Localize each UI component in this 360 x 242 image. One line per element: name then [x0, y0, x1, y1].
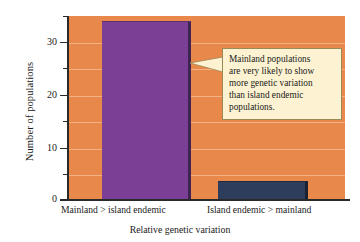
bar-island-face: [218, 181, 305, 199]
y-tick-minor-5: [63, 174, 68, 175]
y-axis-title: Number of populations: [24, 37, 35, 187]
callout-annotation-box: Mainland populations are very likely to …: [222, 48, 342, 120]
x-axis-line: [60, 199, 350, 201]
callout-pointer-arrow: [190, 55, 226, 79]
y-tick-label-20: 20: [17, 90, 57, 100]
bar-mainland-edge: [188, 21, 191, 199]
x-tick-label-mainland: Mainland > island endemic: [61, 204, 166, 215]
y-tick-major-30: [60, 42, 68, 43]
callout-line-4: than island endemic: [229, 89, 336, 101]
x-axis-title: Relative genetic variation: [0, 224, 360, 235]
y-axis-line: [67, 16, 69, 200]
x-tick-label-island: Island endemic > mainland: [207, 204, 311, 215]
bar-mainland-greater-than-island: [102, 21, 191, 199]
y-tick-label-10: 10: [17, 143, 57, 153]
y-tick-label-0: 0: [17, 194, 57, 204]
y-tick-minor-15: [63, 121, 68, 122]
y-tick-major-0: [60, 199, 68, 200]
bar-mainland-face: [102, 21, 188, 199]
y-tick-label-30: 30: [17, 37, 57, 47]
y-tick-minor-35: [63, 16, 68, 17]
bar-island-edge: [305, 181, 308, 199]
callout-line-5: populations.: [229, 101, 336, 113]
callout-line-2: are very likely to show: [229, 65, 336, 77]
y-tick-minor-25: [63, 68, 68, 69]
y-tick-major-10: [60, 148, 68, 149]
bar-chart-figure: Number of populations 30 20 10 0 Ma: [0, 0, 360, 242]
bar-mainland-top: [102, 21, 191, 22]
y-tick-major-20: [60, 95, 68, 96]
callout-line-1: Mainland populations: [229, 53, 336, 65]
bar-island-greater-than-mainland: [218, 181, 308, 199]
bar-island-top: [218, 181, 308, 182]
callout-line-3: more genetic variation: [229, 77, 336, 89]
